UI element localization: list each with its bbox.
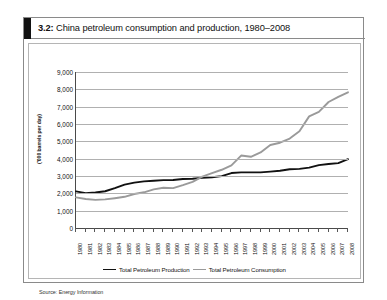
- figure-title-text: China petroleum consumption and producti…: [56, 23, 290, 33]
- y-axis-tick-label: 3,000: [57, 173, 73, 180]
- figure-number: 3.2:: [38, 23, 54, 33]
- x-axis-tick: [85, 228, 86, 232]
- x-axis-tick: [337, 228, 338, 232]
- x-axis-tick: [221, 228, 222, 232]
- gridline: [76, 72, 348, 73]
- x-axis-tick-label: 1997: [242, 243, 248, 255]
- series-line: [76, 92, 348, 200]
- x-axis-tick-label: 1984: [116, 243, 122, 255]
- x-axis-tick: [279, 228, 280, 232]
- x-axis-tick: [328, 228, 329, 232]
- x-axis-tick: [104, 228, 105, 232]
- y-axis-tick-label: 0: [69, 225, 73, 232]
- chart-legend: Total Petroleum Production Total Petrole…: [29, 266, 360, 273]
- legend-swatch-consumption: [193, 269, 206, 270]
- x-axis-tick: [298, 228, 299, 232]
- legend-label-production: Total Petroleum Production: [119, 266, 190, 273]
- x-axis-tick-label: 1995: [223, 243, 229, 255]
- x-axis-tick: [75, 228, 76, 232]
- x-axis-tick-label: 2003: [301, 243, 307, 255]
- gridline: [76, 124, 348, 125]
- x-axis-tick: [318, 228, 319, 232]
- gridline: [76, 89, 348, 90]
- x-axis-tick: [347, 228, 348, 232]
- x-axis-tick: [124, 228, 125, 232]
- gridline: [76, 176, 348, 177]
- x-axis-tick-label: 1989: [165, 243, 171, 255]
- x-axis-tick-label: 1985: [126, 243, 132, 255]
- x-axis-tick-label: 1990: [174, 243, 180, 255]
- x-axis-tick-label: 1987: [145, 243, 151, 255]
- x-axis-tick-labels: 1980198119821983198419851986198719881989…: [75, 232, 347, 262]
- x-axis-tick-label: 1998: [252, 243, 258, 255]
- y-axis-tick-label: 4,000: [57, 155, 73, 162]
- line-chart: ('000 barrels per day) 9,0008,0007,0006,…: [29, 44, 360, 278]
- x-axis-tick: [182, 228, 183, 232]
- x-axis-tick-label: 1982: [97, 243, 103, 255]
- x-axis-tick: [133, 228, 134, 232]
- x-axis-tick: [269, 228, 270, 232]
- series-lines: [76, 72, 348, 228]
- y-axis-tick-label: 1,000: [57, 207, 73, 214]
- x-axis-tick-label: 2001: [281, 243, 287, 255]
- x-axis-tick-label: 1996: [233, 243, 239, 255]
- x-axis-tick: [240, 228, 241, 232]
- x-axis-tick-label: 1991: [184, 243, 190, 255]
- chart-container: ('000 barrels per day) 9,0008,0007,0006,…: [28, 43, 361, 279]
- x-axis-tick: [94, 228, 95, 232]
- gridline: [76, 141, 348, 142]
- x-axis-tick-label: 1986: [135, 243, 141, 255]
- x-axis-tick: [201, 228, 202, 232]
- x-axis-tick-label: 1988: [155, 243, 161, 255]
- plot-area: [75, 72, 348, 229]
- x-axis-tick-label: 1994: [213, 243, 219, 255]
- x-axis-tick: [308, 228, 309, 232]
- x-axis-tick: [172, 228, 173, 232]
- x-axis-tick-label: 2006: [330, 243, 336, 255]
- y-axis-tick-label: 5,000: [57, 138, 73, 145]
- gridline: [76, 107, 348, 108]
- y-axis-tick-label: 9,000: [57, 69, 73, 76]
- y-axis-tick-labels: 9,0008,0007,0006,0005,0004,0003,0002,000…: [43, 72, 73, 228]
- x-axis-tick: [250, 228, 251, 232]
- x-axis-tick-label: 2005: [320, 243, 326, 255]
- x-axis-tick-label: 1983: [106, 243, 112, 255]
- x-axis-tick: [114, 228, 115, 232]
- title-tab-marker: [24, 18, 31, 39]
- y-axis-title: ('000 barrels per day): [36, 103, 42, 175]
- x-axis-tick-label: 2007: [339, 243, 345, 255]
- legend-swatch-production: [103, 269, 116, 270]
- x-axis-tick-label: 1992: [194, 243, 200, 255]
- x-axis-tick: [153, 228, 154, 232]
- y-axis-tick-label: 8,000: [57, 86, 73, 93]
- y-axis-tick-label: 2,000: [57, 190, 73, 197]
- x-axis-tick: [211, 228, 212, 232]
- x-axis-tick: [260, 228, 261, 232]
- figure-title-bar: 3.2: China petroleum consumption and pro…: [24, 18, 365, 39]
- figure-card: 3.2: China petroleum consumption and pro…: [23, 17, 364, 283]
- y-axis-tick-label: 6,000: [57, 121, 73, 128]
- x-axis-tick: [230, 228, 231, 232]
- figure-title: 3.2: China petroleum consumption and pro…: [31, 23, 290, 33]
- x-axis-tick: [192, 228, 193, 232]
- x-axis-tick: [143, 228, 144, 232]
- x-axis-tick-label: 1999: [262, 243, 268, 255]
- y-axis-tick-label: 7,000: [57, 103, 73, 110]
- x-axis-tick-label: 2004: [310, 243, 316, 255]
- x-axis-tick-label: 1980: [77, 243, 83, 255]
- x-axis-tick: [289, 228, 290, 232]
- gridline: [76, 159, 348, 160]
- x-axis-tick-label: 1993: [203, 243, 209, 255]
- gridline: [76, 193, 348, 194]
- legend-label-consumption: Total Petroleum Consumption: [209, 266, 286, 273]
- x-axis-tick-label: 1981: [87, 243, 93, 255]
- gridline: [76, 211, 348, 212]
- source-note: Source: Energy Information: [39, 289, 103, 295]
- x-axis-tick: [162, 228, 163, 232]
- x-axis-tick-label: 2000: [271, 243, 277, 255]
- x-axis-tick-label: 2002: [291, 243, 297, 255]
- x-axis-tick-label: 2008: [349, 243, 355, 255]
